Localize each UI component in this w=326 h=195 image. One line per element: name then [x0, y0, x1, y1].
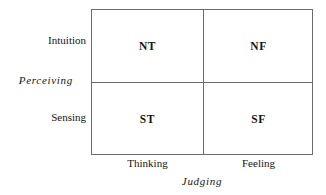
- type-matrix-diagram: NT NF ST SF Intuition Sensing Perceiving…: [0, 0, 326, 195]
- row-label-sensing: Sensing: [51, 111, 86, 123]
- quadrant-cell-st: ST: [92, 83, 203, 155]
- row-label-intuition: Intuition: [48, 34, 86, 46]
- column-label-thinking: Thinking: [92, 157, 203, 169]
- y-axis-label-perceiving: Perceiving: [19, 74, 73, 86]
- quadrant-cell-sf: SF: [204, 83, 313, 155]
- quadrant-cell-nt: NT: [92, 10, 203, 82]
- column-label-feeling: Feeling: [204, 157, 313, 169]
- x-axis-label-judging: Judging: [91, 175, 313, 187]
- quadrant-cell-nf: NF: [204, 10, 313, 82]
